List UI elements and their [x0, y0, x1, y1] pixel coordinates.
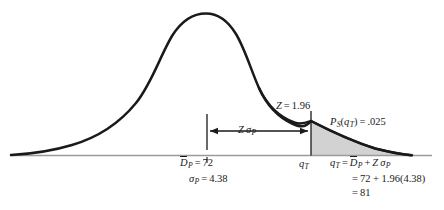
qt-eq-d-bar: D [350, 157, 358, 168]
z-sigma-double-arrow [210, 128, 308, 134]
prob-equals: = [357, 116, 367, 127]
z-equals: = [282, 100, 292, 111]
qt-axis-label: qT [299, 158, 309, 171]
sigma-subscript: P [251, 128, 256, 137]
std-dev-stat-row: σP=4.38 [180, 173, 228, 186]
mean-statistics-block: DP=72 σP=4.38 [180, 157, 228, 189]
qt-equation-row-2: =72 + 1.96(4.38) [330, 173, 425, 184]
qt-eq-equals-2: = [350, 173, 360, 184]
d-bar-symbol: D [180, 157, 188, 168]
std-dev-equals: = [199, 173, 209, 184]
qt-equation-row-1: qT=DP+Z σP [330, 157, 425, 170]
qt-eq-sigma-sub: P [386, 161, 391, 170]
qt-eq-plus: + [362, 157, 372, 168]
qt-subscript: T [304, 162, 309, 171]
mean-equals: = [193, 157, 203, 168]
prob-value: .025 [367, 116, 385, 127]
qt-eq-equals-1: = [340, 157, 350, 168]
std-dev-value: 4.38 [209, 173, 227, 184]
qt-eq-result: 81 [360, 187, 371, 198]
tail-probability-label: PS(qT)=.025 [330, 116, 386, 129]
mean-value: 72 [203, 157, 214, 168]
z-number: 1.96 [292, 100, 310, 111]
z-sigma-label: Z σP [238, 124, 256, 137]
z-value-annotation: Z=1.96 [276, 100, 310, 111]
distribution-figure: Z=1.96 Z σP PS(qT)=.025 qT DP=72 σP=4.38… [0, 0, 444, 210]
mean-stat-row: DP=72 [180, 157, 228, 170]
qt-equation-block: qT=DP+Z σP =72 + 1.96(4.38) =81 [330, 157, 425, 201]
distribution-curve [11, 14, 411, 156]
qt-eq-numeric-expression: 72 + 1.96(4.38) [360, 173, 425, 184]
qt-equation-row-3: =81 [330, 187, 425, 198]
d-bar-subscript: P [188, 161, 193, 170]
qt-eq-equals-3: = [350, 187, 360, 198]
z-symbol: Z [276, 100, 282, 111]
qt-eq-sigma: σ [380, 157, 385, 168]
